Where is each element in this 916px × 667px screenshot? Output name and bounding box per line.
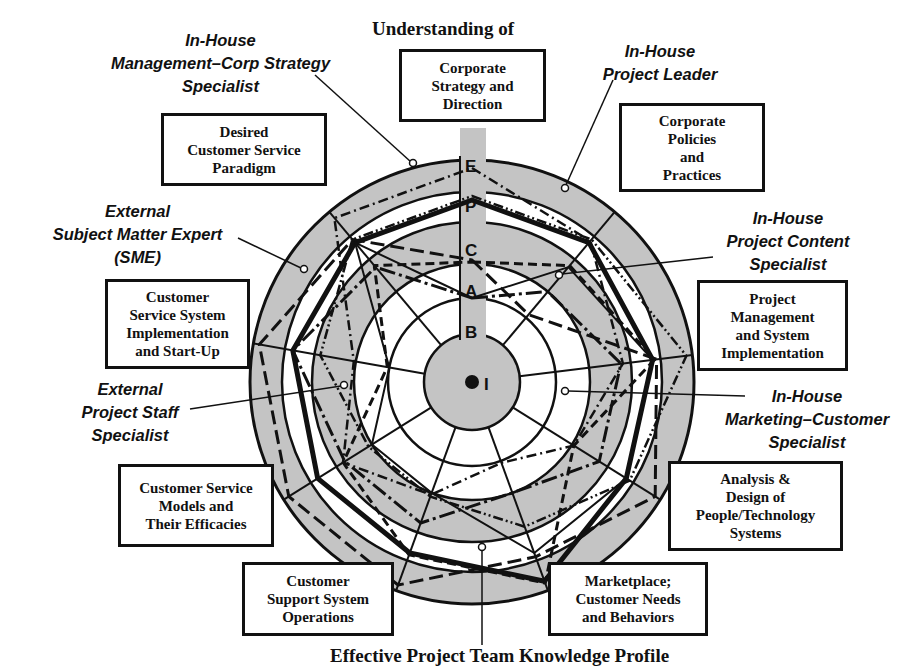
category-desired-paradigm: Desired Customer Service Paradigm [161,113,327,186]
category-marketplace: Marketplace; Customer Needs and Behavior… [548,562,708,636]
scale-label-p: P [465,197,476,216]
category-support-operations: Customer Support System Operations [242,562,394,636]
role-project-content: In-House Project Content Specialist [698,207,878,276]
scale-label-b: B [465,323,477,342]
scale-label-i: I [484,375,489,394]
category-pm-system-implementation: Project Management and System Implementa… [697,280,848,371]
scale-label-c: C [465,241,477,260]
category-corporate-policies: Corporate Policies and Practices [619,103,765,192]
scale-label-e: E [465,157,476,176]
role-project-staff: External Project Staff Specialist [50,378,210,447]
role-project-leader: In-House Project Leader [585,40,735,86]
category-corporate-strategy: Corporate Strategy and Direction [399,49,546,122]
center-dot [465,375,479,389]
chart-caption: Effective Project Team Knowledge Profile [330,645,669,667]
role-mgmt-corp-strategy: In-House Management–Corp Strategy Specia… [88,29,353,98]
category-css-implementation: Customer Service System Implementation a… [105,279,250,369]
scale-label-a: A [465,282,477,301]
category-service-models: Customer Service Models and Their Effica… [118,464,274,547]
chart-title: Understanding of [372,18,514,40]
category-analysis-design: Analysis & Design of People/Technology S… [668,461,843,551]
role-marketing-customer: In-House Marketing–Customer Specialist [702,385,912,454]
role-sme: External Subject Matter Expert (SME) [20,200,255,269]
